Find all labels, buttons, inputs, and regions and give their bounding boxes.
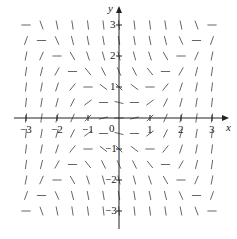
slope-segment [132, 67, 136, 75]
slope-segment [87, 52, 90, 61]
slope-segment [134, 36, 136, 45]
slope-segment [179, 36, 183, 44]
slope-segment [163, 176, 168, 184]
slope-segment [55, 191, 59, 199]
slope-segment [196, 82, 198, 91]
slope-segment [56, 83, 59, 92]
slope-field-plot [0, 0, 237, 239]
slope-segment [55, 68, 60, 76]
x-axis-label: x [226, 122, 231, 133]
slope-segment [56, 98, 58, 107]
slope-segment [56, 20, 58, 29]
slope-segment [25, 98, 26, 107]
slope-segment [72, 20, 73, 29]
slope-segment [84, 100, 91, 106]
y-tick-label: −3 [105, 205, 117, 216]
y-axis-label: y [108, 3, 113, 14]
slope-segment [70, 98, 74, 106]
slope-segment [195, 176, 199, 184]
slope-segment [131, 146, 138, 152]
slope-segment [41, 82, 43, 91]
slope-segment [165, 20, 166, 29]
slope-segment [55, 161, 60, 169]
slope-segment [164, 36, 166, 45]
slope-segment [40, 160, 42, 169]
slope-segment [134, 191, 136, 200]
slope-segment [40, 176, 44, 184]
slope-segment [103, 36, 105, 45]
slope-segment [72, 206, 73, 215]
slope-segment [103, 20, 104, 29]
slope-segment [149, 191, 151, 200]
slope-segment [101, 160, 105, 168]
slope-segment [133, 176, 135, 185]
slope-segment [87, 206, 88, 215]
slope-segment [149, 52, 152, 61]
slope-segment [134, 206, 135, 215]
slope-segment [195, 67, 197, 76]
slope-segment [25, 51, 27, 60]
slope-segment [196, 98, 198, 107]
slope-segment [25, 144, 26, 153]
slope-segment [24, 36, 27, 45]
slope-segment [179, 161, 184, 169]
slope-segment [163, 98, 167, 106]
slope-segment [41, 129, 43, 138]
slope-segment [25, 160, 26, 169]
slope-segment [87, 36, 89, 45]
slope-segment [149, 36, 151, 45]
slope-segment [102, 52, 104, 61]
y-tick-label: 3 [110, 19, 116, 30]
origin-label: 0 [109, 123, 115, 134]
slope-segment [101, 67, 105, 75]
slope-segment [100, 84, 107, 90]
slope-segment [133, 52, 135, 61]
slope-segment [211, 144, 212, 153]
slope-segment [195, 21, 198, 30]
y-axis-arrow-icon [116, 6, 122, 13]
x-tick-label: 3 [209, 124, 215, 135]
slope-segment [210, 36, 213, 45]
slope-segment [25, 82, 26, 91]
slope-segment [41, 144, 43, 153]
slope-segment [180, 20, 182, 29]
x-tick-label: −2 [51, 124, 63, 135]
slope-segment [195, 160, 197, 169]
slope-segment [85, 68, 91, 75]
slope-segment [56, 145, 59, 154]
slope-segment [163, 52, 168, 60]
slope-segment [195, 207, 198, 216]
slope-segment [211, 160, 212, 169]
slope-segment [71, 191, 73, 200]
slope-segment [164, 191, 166, 200]
slope-segment [70, 129, 74, 137]
slope-segment [163, 83, 169, 90]
slope-segment [41, 98, 43, 107]
slope-segment [24, 191, 27, 200]
slope-segment [25, 175, 27, 184]
slope-segment [149, 206, 150, 215]
slope-segment [70, 145, 76, 152]
slope-segment [165, 206, 166, 215]
slope-segment [211, 67, 212, 76]
y-tick-label: −2 [105, 174, 117, 185]
slope-segment [211, 82, 212, 91]
x-tick-label: −3 [20, 124, 32, 135]
x-tick-label: 2 [178, 124, 184, 135]
y-tick-label: 1 [110, 81, 116, 92]
slope-segment [70, 176, 75, 184]
slope-segment [211, 175, 213, 184]
slope-segment [179, 68, 184, 76]
slope-segment [103, 191, 105, 200]
slope-segment [195, 52, 199, 60]
slope-segment [131, 84, 138, 90]
y-tick-label: −1 [105, 143, 117, 154]
slope-segment [40, 21, 43, 30]
slope-segment [25, 67, 26, 76]
slope-segment [146, 100, 153, 106]
slope-segment [71, 36, 73, 45]
slope-segment [180, 206, 182, 215]
slope-segment [87, 20, 88, 29]
slope-segment [40, 67, 42, 76]
slope-segment [211, 98, 212, 107]
